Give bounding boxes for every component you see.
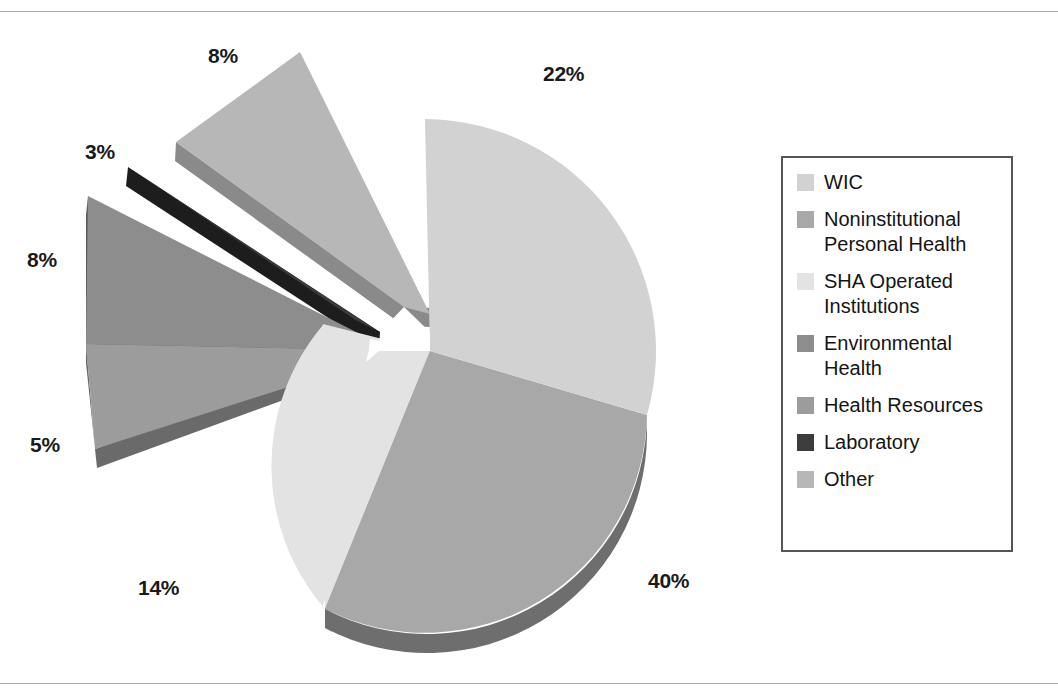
legend-swatch-environmental-health — [797, 335, 814, 352]
legend-label-laboratory: Laboratory — [824, 430, 920, 455]
legend-label-other: Other — [824, 467, 874, 492]
legend-label-wic: WIC — [824, 170, 863, 195]
legend-item-other[interactable]: Other — [797, 467, 1011, 492]
legend-label-sha-operated-institutions: SHA Operated Institutions — [824, 269, 953, 319]
label-environmental-percent: 8% — [27, 248, 57, 272]
label-noninstitutional-percent: 40% — [648, 569, 689, 593]
legend-label-environmental-health: Environmental Health — [824, 331, 952, 381]
chart-legend: WIC Noninstitutional Personal Health SHA… — [781, 156, 1013, 552]
bottom-divider-rule — [0, 683, 1058, 684]
legend-label-health-resources: Health Resources — [824, 393, 983, 418]
page-root: 22% 40% 14% 8% 5% 3% 8% WIC Noninstituti… — [0, 0, 1058, 700]
legend-item-wic[interactable]: WIC — [797, 170, 1011, 195]
label-health-resources-percent: 5% — [30, 433, 60, 457]
label-wic-percent: 22% — [543, 62, 584, 86]
legend-item-sha-operated-institutions[interactable]: SHA Operated Institutions — [797, 269, 1011, 319]
label-laboratory-percent: 3% — [85, 140, 115, 164]
legend-swatch-health-resources — [797, 397, 814, 414]
legend-item-health-resources[interactable]: Health Resources — [797, 393, 1011, 418]
legend-swatch-wic — [797, 174, 814, 191]
top-divider-rule — [0, 11, 1058, 12]
legend-label-noninstitutional-personal-health: Noninstitutional Personal Health — [824, 207, 966, 257]
legend-swatch-sha-operated-institutions — [797, 273, 814, 290]
label-sha-percent: 14% — [138, 576, 179, 600]
legend-swatch-other — [797, 471, 814, 488]
label-other-percent: 8% — [208, 44, 238, 68]
legend-item-environmental-health[interactable]: Environmental Health — [797, 331, 1011, 381]
legend-swatch-laboratory — [797, 434, 814, 451]
legend-item-laboratory[interactable]: Laboratory — [797, 430, 1011, 455]
legend-swatch-noninstitutional-personal-health — [797, 211, 814, 228]
legend-item-noninstitutional-personal-health[interactable]: Noninstitutional Personal Health — [797, 207, 1011, 257]
